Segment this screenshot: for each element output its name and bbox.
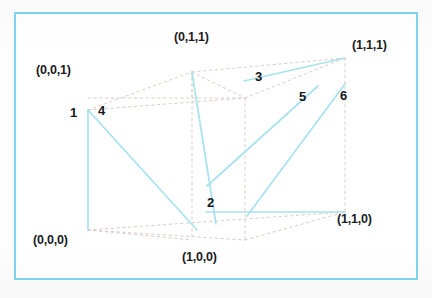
vertex-label-001: (0,0,1)	[36, 63, 71, 77]
vertex-label-000: (0,0,0)	[33, 233, 68, 247]
cube-diagram-figure: (0,0,1) (0,1,1) (1,1,1) (0,0,0) (1,0,0) …	[0, 0, 432, 298]
vertex-label-110: (1,1,0)	[337, 212, 372, 226]
edge-label-3: 3	[255, 69, 262, 84]
edge-6-line	[247, 84, 345, 216]
edge-label-5: 5	[299, 89, 306, 104]
dashed-edge-011-111	[192, 58, 345, 72]
edge-label-2: 2	[207, 195, 214, 210]
dashed-edge-100-110	[245, 212, 345, 240]
dashed-edge-000-100	[88, 230, 245, 240]
cube-highlight-edges	[88, 58, 345, 230]
edge-4-line	[88, 110, 197, 230]
dashed-edge-000-010	[88, 230, 192, 240]
vertex-label-011: (0,1,1)	[174, 30, 209, 44]
edge-label-4: 4	[98, 103, 105, 118]
edge-label-1: 1	[70, 105, 77, 120]
vertex-label-111: (1,1,1)	[352, 38, 387, 52]
edge-label-6: 6	[340, 88, 347, 103]
dashed-edge-000-diag	[88, 212, 345, 230]
vertex-label-100: (1,0,0)	[182, 250, 217, 264]
dashed-edge-001-101	[88, 98, 245, 110]
dashed-edge-011-101	[192, 72, 245, 98]
